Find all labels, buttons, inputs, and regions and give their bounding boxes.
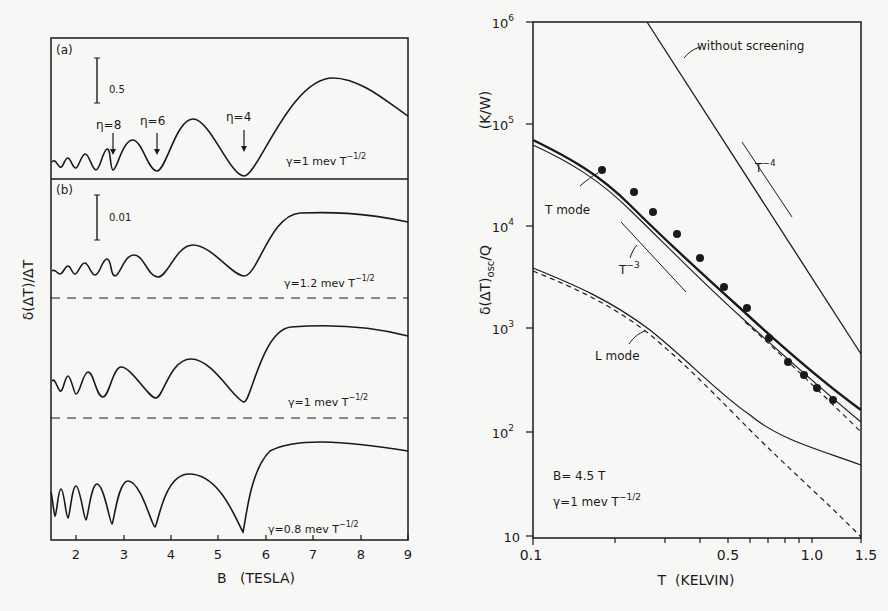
svg-text:0.5: 0.5 [717,547,739,563]
right-y-ticks [526,22,533,536]
svg-text:0.1: 0.1 [520,547,542,563]
t4-reference-line [742,142,792,217]
t-mode-pointer [580,173,598,186]
right-x-ticks [533,538,861,545]
svg-text:1.5: 1.5 [855,547,877,563]
svg-text:1.0: 1.0 [801,547,823,563]
curve-b-gamma-1 [52,326,408,402]
t3-pointer [630,245,637,258]
eta-6-label: η=6 [140,114,165,128]
curve-without-screening [647,22,861,354]
svg-text:106: 106 [492,13,515,31]
curve-label-b1: γ=1.2 mev T−1/2 [284,274,375,290]
right-x-tick-labels: 0.1 0.5 1.0 1.5 [520,547,877,563]
svg-text:103: 103 [492,319,514,337]
label-t3: T−3 [618,260,640,277]
svg-text:9: 9 [404,547,412,562]
figure: (a) (b) 0.5 0.01 η=8 η=6 η=4 γ=1 mev T−1… [0,0,888,611]
curve-label-b2: γ=1 mev T−1/2 [288,393,368,409]
left-y-axis-label: δ(ΔT)/ΔT [20,259,36,320]
svg-text:4: 4 [167,547,175,562]
svg-text:2: 2 [72,547,80,562]
label-a: (a) [56,43,73,57]
left-x-axis-label: B (TESLA) [217,570,295,586]
eta-4-label: η=4 [226,110,251,124]
left-panel-text: (a) (b) 0.5 0.01 η=8 η=6 η=4 γ=1 mev T−1… [20,43,412,586]
scale-label-b: 0.01 [109,212,131,223]
l-mode-pointer [629,331,645,344]
label-l-mode: L mode [595,349,640,363]
label-field: B= 4.5 T [553,469,606,483]
right-y-axis-label: δ(ΔT)osc/Q [477,245,496,315]
svg-text:8: 8 [357,547,365,562]
svg-text:3: 3 [120,547,128,562]
svg-text:105: 105 [492,115,514,133]
curve-t-mode-thin [533,145,861,422]
curve-label-b3: γ=0.8 mev T−1/2 [268,520,359,536]
label-gamma: γ=1 mev T−1/2 [553,492,641,509]
right-y-tick-labels: 106 105 104 103 102 10 [492,13,520,545]
curve-l-mode [533,268,861,465]
right-x-axis-label: T (KELVIN) [657,572,735,588]
label-t4: T−4 [754,158,776,175]
svg-text:6: 6 [262,547,270,562]
left-x-tick-labels: 2 3 4 5 6 7 8 9 [72,547,412,562]
label-b: (b) [56,183,73,197]
experimental-points [598,166,837,404]
right-y-axis-units: (K/W) [477,91,493,130]
scale-label-a: 0.5 [109,84,125,95]
curve-b-gamma-1.2 [52,213,408,277]
svg-text:104: 104 [492,217,515,235]
label-without-screening: without screening [697,39,804,53]
svg-text:5: 5 [214,547,222,562]
right-panel-text: 106 105 104 103 102 10 0.1 0.5 1.0 1.5 T… [477,13,877,588]
svg-text:10: 10 [503,530,520,545]
svg-text:7: 7 [309,547,317,562]
right-panel [526,22,861,545]
svg-text:102: 102 [492,423,514,441]
curve-b-gamma-0.8 [51,442,408,532]
eta-8-label: η=8 [96,118,121,132]
curve-label-a: γ=1 mev T−1/2 [286,152,366,168]
label-t-mode: T mode [544,203,590,217]
